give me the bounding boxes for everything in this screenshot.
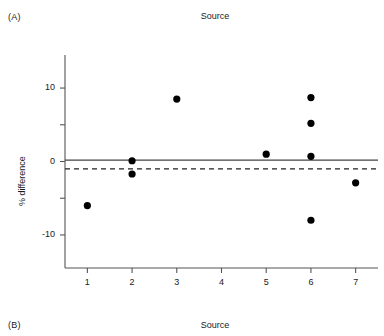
data-point [307,94,314,101]
plot-svg [0,0,384,300]
data-point [84,202,91,209]
panel-b-label: (B) [8,320,21,330]
x-tick-label: 3 [167,277,187,287]
x-tick-label: 1 [77,277,97,287]
x-tick-label: 5 [256,277,276,287]
y-tick-label: -10 [29,229,55,239]
data-point [307,153,314,160]
data-point [128,157,135,164]
data-point [352,179,359,186]
x-tick-label: 4 [212,277,232,287]
scatter-plot-panel-a: % difference 100-101234567 [0,0,384,300]
data-point [263,151,270,158]
panel-b-title: Source [155,320,275,330]
data-point [307,120,314,127]
x-tick-label: 6 [301,277,321,287]
data-point [307,217,314,224]
data-point [128,170,135,177]
x-tick-label: 2 [122,277,142,287]
x-tick-label: 7 [346,277,366,287]
y-tick-label: 0 [29,156,55,166]
data-point [173,95,180,102]
y-tick-label: 10 [29,82,55,92]
